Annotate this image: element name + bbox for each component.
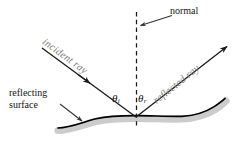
- incident-ray-arrow: [78, 75, 90, 84]
- normal-leader-line: [141, 16, 173, 26]
- reflection-diagram-figure: normal incident ray reflected ray θi θr …: [0, 0, 239, 152]
- angle-of-incidence-label: θi: [112, 92, 120, 105]
- diagram-canvas: [0, 0, 239, 152]
- normal-label: normal: [170, 6, 198, 16]
- reflecting-surface-label-line1: reflecting: [9, 87, 73, 99]
- reflecting-surface-label-line2: surface: [9, 99, 73, 111]
- theta-incidence-subscript: i: [117, 97, 119, 105]
- reflecting-surface-label: reflecting surface: [9, 87, 73, 110]
- angle-of-reflection-label: θr: [138, 92, 146, 105]
- theta-reflection-subscript: r: [143, 97, 146, 105]
